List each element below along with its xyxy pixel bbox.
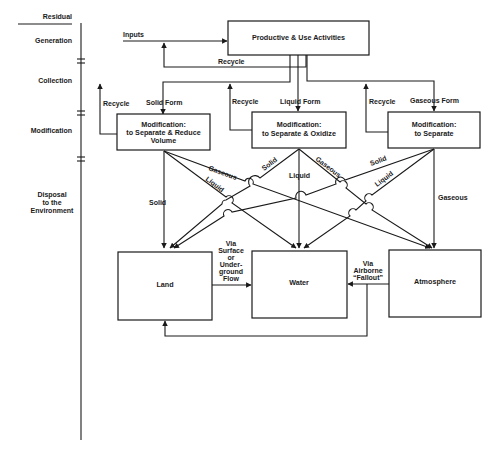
svg-text:“Fallout”: “Fallout”: [353, 274, 383, 281]
environment-sinks: Land Water Atmosphere Via Surface or Und…: [118, 240, 481, 336]
recycle-left-arrow: [100, 84, 117, 134]
svg-text:Under-: Under-: [220, 261, 243, 268]
recycle-mid-label: Recycle: [232, 98, 259, 106]
stage-disposal-2: to the: [42, 199, 61, 206]
land-to-water-label: Via Surface or Under- ground Flow: [218, 240, 244, 282]
mid-gaseous-label: Gaseous: [314, 155, 342, 178]
modification-box-1-line3: Volume: [151, 136, 176, 145]
recycle-right-label: Recycle: [369, 98, 396, 106]
collection-section: Solid Form Liquid Form Gaseous Form: [146, 55, 459, 114]
stage-header-residual: Residual: [43, 13, 72, 20]
modification-section: Modification: to Separate & Reduce Volum…: [100, 84, 480, 150]
gaseous-form-label: Gaseous Form: [410, 97, 459, 104]
productive-use-activities-label: Productive & Use Activities: [252, 33, 345, 42]
left-solid-label: Solid: [149, 199, 166, 206]
mid-solid-label: Solid: [260, 156, 278, 172]
recycle-mid-arrow: [230, 84, 252, 130]
mid-solid-to-land: [170, 149, 299, 248]
liquid-form-label: Liquid Form: [280, 98, 320, 106]
modification-box-3-line2: to Separate: [414, 129, 453, 138]
disposal-flows: Solid Gaseous Liquid Solid Liquid Gaseou…: [149, 149, 468, 248]
svg-text:Airborne: Airborne: [353, 267, 382, 274]
atmosphere-to-water-label: Via Airborne “Fallout”: [353, 260, 383, 281]
mid-liquid-label: Liquid: [289, 172, 310, 180]
svg-text:Flow: Flow: [223, 275, 239, 282]
stage-collection: Collection: [38, 77, 72, 84]
inputs-label: Inputs: [123, 31, 144, 39]
right-solid-to-land: [174, 149, 434, 248]
atmosphere-label: Atmosphere: [414, 277, 456, 286]
left-liquid-label: Liquid: [204, 175, 226, 194]
solid-form-label: Solid Form: [146, 99, 183, 106]
generation-section: Inputs Productive & Use Activities Recyc…: [123, 21, 369, 67]
right-gaseous-label: Gaseous: [438, 194, 468, 201]
recycle-to-inputs-label: Recycle: [218, 58, 245, 66]
recycle-left-label: Recycle: [103, 100, 130, 108]
stage-modification: Modification: [31, 127, 72, 134]
land-label: Land: [156, 280, 173, 289]
svg-text:Via: Via: [226, 240, 236, 247]
modification-box-2-line1: Modification:: [277, 120, 322, 129]
recycle-right-arrow: [366, 84, 388, 132]
left-gaseous-to-atmosphere: [164, 151, 430, 248]
stage-disposal-3: Environment: [31, 207, 74, 214]
residual-flow-diagram: Residual Generation Collection Modificat…: [0, 0, 497, 454]
svg-text:or: or: [228, 254, 235, 261]
stage-axis: Residual Generation Collection Modificat…: [18, 13, 85, 440]
right-solid-label: Solid: [369, 155, 387, 167]
stage-generation: Generation: [35, 37, 72, 44]
stage-disposal-1: Disposal: [37, 191, 66, 199]
modification-box-3-line1: Modification:: [412, 120, 457, 129]
water-label: Water: [289, 278, 309, 287]
svg-text:Via: Via: [363, 260, 373, 267]
svg-text:Surface: Surface: [218, 247, 244, 254]
modification-box-2-line2: to Separate & Oxidize: [262, 129, 336, 138]
